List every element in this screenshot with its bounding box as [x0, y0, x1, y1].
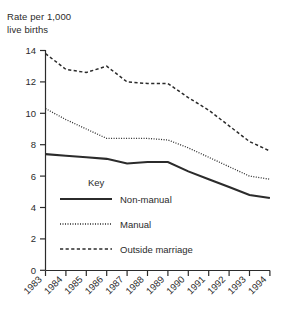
y-tick-label: 2	[31, 233, 36, 244]
y-tick-label: 4	[31, 202, 36, 213]
y-axis-ticks	[40, 51, 46, 271]
legend-label-non-manual: Non-manual	[120, 194, 172, 205]
x-tick-label: 1994	[246, 274, 269, 297]
legend-label-manual: Manual	[120, 219, 151, 230]
x-tick-label: 1987	[103, 274, 126, 297]
legend-label-outside-marriage: Outside marriage	[120, 244, 193, 255]
x-tick-label: 1986	[82, 274, 105, 297]
x-tick-label: 1992	[205, 274, 228, 297]
chart-container: Rate per 1,000live births 14 12 10 8 6 4…	[0, 0, 283, 318]
line-chart-svg: 14 12 10 8 6 4 2 0 1983 1984 1985 1986 1…	[0, 0, 283, 318]
x-tick-label: 1984	[42, 274, 65, 297]
legend: Key Non-manual Manual Outside marriage	[60, 177, 193, 255]
x-tick-label: 1993	[225, 274, 248, 297]
legend-title: Key	[88, 177, 105, 188]
x-tick-label: 1983	[21, 274, 44, 297]
series-line-non-manual	[46, 154, 270, 198]
x-tick-label: 1988	[123, 274, 146, 297]
y-tick-label: 14	[25, 45, 36, 56]
x-tick-label: 1990	[164, 274, 187, 297]
y-tick-label: 10	[25, 108, 36, 119]
y-tick-label: 6	[31, 171, 36, 182]
y-tick-label: 12	[25, 76, 36, 87]
y-tick-label: 8	[31, 139, 36, 150]
x-tick-label: 1985	[62, 274, 85, 297]
series-line-outside-marriage	[46, 54, 270, 151]
series-line-manual	[46, 109, 270, 180]
x-tick-label: 1991	[184, 274, 207, 297]
x-tick-label: 1989	[144, 274, 167, 297]
